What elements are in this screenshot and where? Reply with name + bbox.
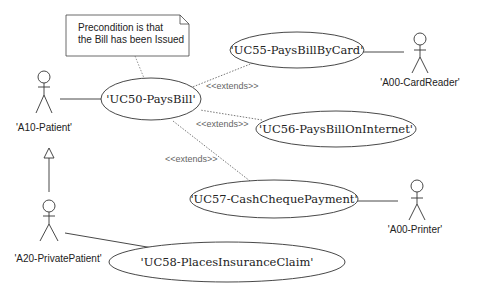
actor-label: 'A00-Printer' — [388, 224, 442, 235]
uc57-label: 'UC57-CashChequePayment' — [190, 192, 357, 206]
use-case-uc55[interactable]: 'UC55-PaysBillByCard' — [230, 32, 364, 68]
uc50-label: 'UC50-PaysBill' — [106, 92, 195, 106]
use-case-uc58[interactable]: 'UC58-PlacesInsuranceClaim' — [109, 242, 345, 282]
assoc-privatepatient-uc58 — [65, 233, 153, 248]
stick-figure-icon — [36, 71, 52, 113]
actor-a10-patient[interactable]: 'A10-Patient' — [16, 71, 72, 133]
extends-line-uc57 — [173, 121, 250, 181]
use-case-diagram: Precondition is that the Bill has been I… — [0, 0, 479, 296]
uc58-label: 'UC58-PlacesInsuranceClaim' — [141, 255, 314, 269]
use-case-uc50[interactable]: 'UC50-PaysBill' — [101, 78, 201, 120]
actor-label: 'A00-CardReader' — [380, 77, 460, 88]
use-case-uc56[interactable]: 'UC56-PaysBillOnInternet' — [256, 111, 416, 147]
actor-a00-cardreader[interactable]: 'A00-CardReader' — [380, 33, 460, 88]
actor-a20-privatepatient[interactable]: 'A20-PrivatePatient' — [14, 200, 101, 264]
actor-label: 'A20-PrivatePatient' — [14, 253, 101, 264]
extends-label-uc56: <<extends>> — [196, 119, 249, 129]
note-line-1: Precondition is that — [78, 22, 163, 33]
precondition-note: Precondition is that the Bill has been I… — [66, 15, 189, 56]
stick-figure-icon — [40, 200, 58, 241]
stick-figure-icon — [412, 33, 428, 73]
use-case-uc57[interactable]: 'UC57-CashChequePayment' — [190, 180, 358, 218]
extends-label-uc57: <<extends>> — [165, 154, 218, 164]
extends-label-uc55: <<extends>> — [206, 81, 259, 91]
uc56-label: 'UC56-PaysBillOnInternet' — [259, 122, 413, 136]
actor-a00-printer[interactable]: 'A00-Printer' — [388, 180, 442, 235]
uc55-label: 'UC55-PaysBillByCard' — [231, 43, 364, 57]
stick-figure-icon — [409, 180, 425, 220]
generalization-arrowhead-icon — [44, 148, 54, 158]
actor-label: 'A10-Patient' — [16, 122, 72, 133]
note-line-2: the Bill has been Issued — [78, 34, 184, 45]
